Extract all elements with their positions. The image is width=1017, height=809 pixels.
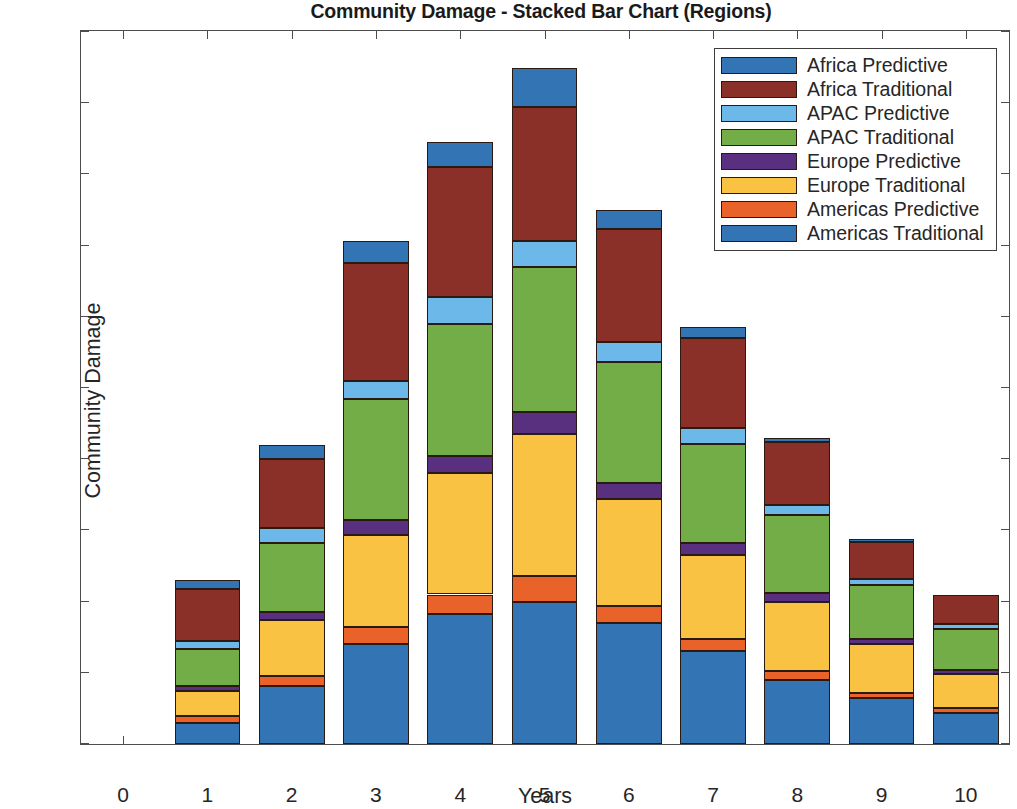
bar-segment[interactable] (259, 620, 325, 676)
bar-segment[interactable] (849, 579, 915, 585)
bar-segment[interactable] (764, 515, 830, 593)
bar-segment[interactable] (680, 639, 746, 652)
bar-segment[interactable] (933, 670, 999, 674)
bar-segment[interactable] (849, 698, 915, 744)
bar-segment[interactable] (596, 342, 662, 362)
bar-segment[interactable] (596, 210, 662, 229)
y-axis-tick-mark (1001, 672, 1009, 673)
bar-stack[interactable] (259, 32, 325, 744)
legend-item[interactable]: Europe Traditional (721, 173, 990, 197)
bar-segment[interactable] (764, 602, 830, 672)
bar-segment[interactable] (259, 445, 325, 459)
legend-item[interactable]: Africa Predictive (721, 53, 990, 77)
legend-item[interactable]: APAC Predictive (721, 101, 990, 125)
bar-segment[interactable] (427, 595, 493, 615)
bar-segment[interactable] (849, 585, 915, 639)
bar-segment[interactable] (933, 624, 999, 628)
bar-segment[interactable] (680, 327, 746, 338)
bar-segment[interactable] (343, 644, 409, 744)
bar-segment[interactable] (849, 542, 915, 579)
bar-segment[interactable] (596, 606, 662, 623)
legend-item[interactable]: Africa Traditional (721, 77, 990, 101)
bar-segment[interactable] (764, 505, 830, 515)
bar-stack[interactable] (427, 32, 493, 744)
bar-segment[interactable] (764, 593, 830, 602)
bar-segment[interactable] (175, 649, 241, 686)
bar-segment[interactable] (343, 627, 409, 644)
bar-segment[interactable] (343, 381, 409, 400)
bar-segment[interactable] (427, 324, 493, 456)
bar-segment[interactable] (764, 671, 830, 680)
bar-segment[interactable] (512, 412, 578, 433)
bar-segment[interactable] (933, 629, 999, 670)
bar-segment[interactable] (764, 438, 830, 442)
bar-segment[interactable] (512, 267, 578, 412)
legend-color-swatch (721, 105, 797, 122)
bar-segment[interactable] (259, 676, 325, 686)
bar-segment[interactable] (343, 399, 409, 520)
legend-item[interactable]: Americas Traditional (721, 221, 990, 245)
bar-segment[interactable] (512, 434, 578, 576)
bar-segment[interactable] (849, 644, 915, 692)
bar-segment[interactable] (259, 686, 325, 744)
bar-segment[interactable] (512, 602, 578, 744)
y-axis-tick-mark (1001, 316, 1009, 317)
bar-segment[interactable] (175, 716, 241, 723)
bar-segment[interactable] (596, 362, 662, 483)
bar-segment[interactable] (849, 693, 915, 699)
bar-segment[interactable] (512, 576, 578, 602)
y-axis-tick-mark (1001, 31, 1009, 32)
bar-segment[interactable] (259, 543, 325, 611)
bar-segment[interactable] (849, 639, 915, 645)
bar-segment[interactable] (596, 483, 662, 499)
bar-segment[interactable] (427, 473, 493, 594)
bar-segment[interactable] (680, 651, 746, 744)
bar-segment[interactable] (512, 68, 578, 108)
legend-item[interactable]: Europe Predictive (721, 149, 990, 173)
y-axis-label: Community Damage (81, 51, 106, 751)
bar-stack[interactable] (596, 32, 662, 744)
bar-segment[interactable] (680, 428, 746, 444)
bar-segment[interactable] (596, 229, 662, 343)
legend-item[interactable]: Americas Predictive (721, 197, 990, 221)
bar-segment[interactable] (764, 680, 830, 744)
bar-segment[interactable] (427, 142, 493, 168)
bar-segment[interactable] (933, 674, 999, 708)
bar-segment[interactable] (427, 297, 493, 324)
bar-segment[interactable] (427, 167, 493, 297)
bar-segment[interactable] (680, 444, 746, 544)
bar-stack[interactable] (512, 32, 578, 744)
bar-segment[interactable] (175, 589, 241, 642)
bar-segment[interactable] (596, 499, 662, 606)
bar-segment[interactable] (680, 555, 746, 639)
bar-segment[interactable] (680, 338, 746, 428)
bar-segment[interactable] (512, 107, 578, 241)
bar-segment[interactable] (343, 241, 409, 262)
bar-segment[interactable] (343, 535, 409, 628)
bar-segment[interactable] (175, 723, 241, 744)
bar-segment[interactable] (175, 691, 241, 715)
bar-segment[interactable] (343, 263, 409, 381)
bar-segment[interactable] (512, 241, 578, 267)
bar-segment[interactable] (259, 459, 325, 527)
bar-segment[interactable] (680, 543, 746, 554)
bar-segment[interactable] (427, 456, 493, 473)
bar-segment[interactable] (175, 580, 241, 589)
bar-segment[interactable] (343, 520, 409, 534)
legend-item[interactable]: APAC Traditional (721, 125, 990, 149)
bar-segment[interactable] (933, 713, 999, 744)
bar-segment[interactable] (849, 539, 915, 542)
bar-segment[interactable] (933, 708, 999, 712)
bar-stack[interactable] (175, 32, 241, 744)
bar-segment[interactable] (259, 612, 325, 621)
bar-segment[interactable] (175, 641, 241, 648)
bar-segment[interactable] (427, 614, 493, 744)
chart-title: Community Damage - Stacked Bar Chart (Re… (72, 0, 1010, 24)
bar-segment[interactable] (175, 686, 241, 692)
bar-segment[interactable] (596, 623, 662, 744)
bar-segment[interactable] (764, 442, 830, 505)
y-axis-tick-mark (1001, 458, 1009, 459)
bar-segment[interactable] (259, 528, 325, 544)
bar-stack[interactable] (343, 32, 409, 744)
bar-segment[interactable] (933, 595, 999, 625)
